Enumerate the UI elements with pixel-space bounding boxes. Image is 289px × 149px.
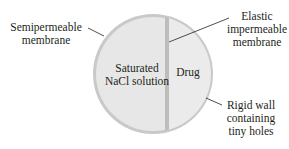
label-line: membrane — [225, 36, 289, 49]
label-line: containing — [220, 112, 282, 125]
label-line: impermeable — [225, 23, 289, 36]
leader-line-semipermeable — [88, 28, 104, 36]
label-rigid-wall: Rigid wall containing tiny holes — [220, 99, 282, 138]
label-line: NaCl solution — [102, 75, 172, 88]
label-line: membrane — [4, 34, 88, 47]
label-elastic-impermeable-membrane: Elastic impermeable membrane — [225, 10, 289, 49]
label-line: Drug — [166, 66, 210, 79]
label-drug: Drug — [166, 66, 210, 79]
label-line: Rigid wall — [220, 99, 282, 112]
label-line: Semipermeable — [4, 21, 88, 34]
osmotic-pump-diagram: Semipermeable membrane Elastic impermeab… — [0, 0, 289, 149]
label-saturated-nacl-solution: Saturated NaCl solution — [102, 62, 172, 88]
label-line: Elastic — [225, 10, 289, 23]
label-line: Saturated — [102, 62, 172, 75]
label-semipermeable-membrane: Semipermeable membrane — [4, 21, 88, 47]
label-line: tiny holes — [220, 125, 282, 138]
